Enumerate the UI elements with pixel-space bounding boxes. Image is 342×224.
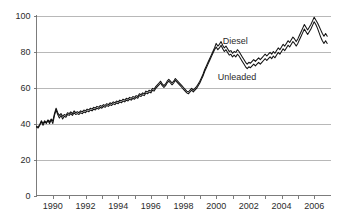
y-tick-label-20: 20 [20,155,30,165]
x-axis-tick-labels: 199019921994199619982000200220042006 [43,201,324,211]
tick-marks [34,17,315,199]
x-tick-label-2000: 2000 [206,201,226,211]
y-tick-label-100: 100 [15,11,30,21]
x-tick-label-1994: 1994 [108,201,128,211]
annotation-diesel: Diesel [223,36,248,46]
x-tick-label-2006: 2006 [304,201,324,211]
x-tick-label-1992: 1992 [75,201,95,211]
annotation-unleaded: Unleaded [218,72,257,82]
gridlines [37,17,331,161]
series-line-diesel [37,17,328,127]
y-tick-label-80: 80 [20,47,30,57]
x-tick-label-1996: 1996 [141,201,161,211]
fuel-price-line-chart: 020406080100 199019921994199619982000200… [0,0,342,224]
chart-canvas: 020406080100 199019921994199619982000200… [0,0,342,224]
y-tick-label-0: 0 [25,191,30,201]
y-tick-label-60: 60 [20,83,30,93]
y-axis-tick-labels: 020406080100 [15,11,30,201]
data-series [37,17,328,128]
x-tick-label-2002: 2002 [239,201,259,211]
series-annotations: DieselUnleaded [218,36,257,82]
x-tick-label-1998: 1998 [173,201,193,211]
y-tick-label-40: 40 [20,119,30,129]
x-tick-label-2004: 2004 [271,201,291,211]
axes [37,15,331,196]
x-tick-label-1990: 1990 [43,201,63,211]
